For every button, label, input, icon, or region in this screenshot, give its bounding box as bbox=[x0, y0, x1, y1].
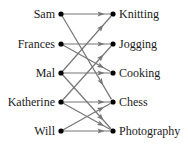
node-dot-katherine bbox=[58, 99, 63, 104]
edges-group bbox=[61, 11, 111, 133]
node-dot-photography bbox=[110, 128, 115, 133]
node-dot-frances bbox=[58, 41, 63, 46]
node-dot-cooking bbox=[110, 70, 115, 75]
node-dot-mal bbox=[58, 70, 63, 75]
relation-diagram: SamFrancesMalKatherineWill KnittingJoggi… bbox=[0, 0, 188, 144]
domain-nodes: SamFrancesMalKatherineWill bbox=[8, 7, 64, 138]
codomain-label-cooking: Cooking bbox=[119, 66, 160, 80]
edge-sam-chess bbox=[61, 14, 111, 99]
domain-label-sam: Sam bbox=[34, 7, 56, 21]
arrowhead-icon bbox=[97, 62, 106, 70]
arrowhead-icon bbox=[97, 105, 106, 113]
node-dot-knitting bbox=[110, 11, 115, 16]
domain-label-frances: Frances bbox=[18, 37, 56, 51]
arrowhead-icon bbox=[97, 78, 105, 87]
node-dot-jogging bbox=[110, 41, 115, 46]
codomain-label-chess: Chess bbox=[119, 95, 148, 109]
codomain-label-jogging: Jogging bbox=[119, 37, 157, 51]
domain-label-mal: Mal bbox=[36, 66, 56, 80]
node-dot-will bbox=[58, 128, 63, 133]
codomain-nodes: KnittingJoggingCookingChessPhotography bbox=[110, 7, 180, 138]
codomain-label-knitting: Knitting bbox=[119, 7, 159, 21]
domain-label-will: Will bbox=[34, 124, 56, 138]
node-dot-sam bbox=[58, 11, 63, 16]
domain-label-katherine: Katherine bbox=[8, 95, 55, 109]
codomain-label-photography: Photography bbox=[119, 124, 180, 138]
node-dot-chess bbox=[110, 99, 115, 104]
